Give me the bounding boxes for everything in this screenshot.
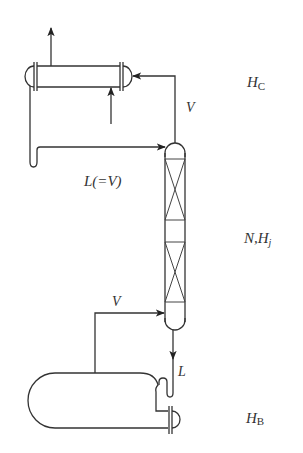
boilup-vapor-line	[95, 313, 164, 373]
distillation-diagram: HC V L(=V) N,Hj V L HB	[0, 0, 303, 453]
liquid-bottom-label: L	[177, 364, 186, 379]
packed-column	[165, 143, 185, 330]
reflux-line	[30, 86, 165, 167]
reboiler-outlet-head	[172, 411, 180, 428]
condenser	[25, 28, 132, 124]
reboiler-drum	[28, 373, 168, 428]
vapor-overhead-line	[133, 76, 175, 143]
condenser-height-label: HC	[246, 74, 265, 92]
condenser-right-head	[123, 66, 132, 87]
column-stages-label: N,Hj	[243, 230, 272, 248]
reboiler-height-label: HB	[245, 410, 264, 427]
reboiler	[28, 373, 180, 434]
vapor-bottom-label: V	[112, 294, 122, 309]
vapor-top-label: V	[186, 100, 196, 115]
column-bottom-head	[165, 318, 185, 330]
column-top-head	[165, 143, 185, 157]
bottoms-liquid-ushape	[159, 358, 173, 397]
condenser-left-head	[25, 66, 34, 87]
reflux-label: L(=V)	[83, 173, 122, 190]
